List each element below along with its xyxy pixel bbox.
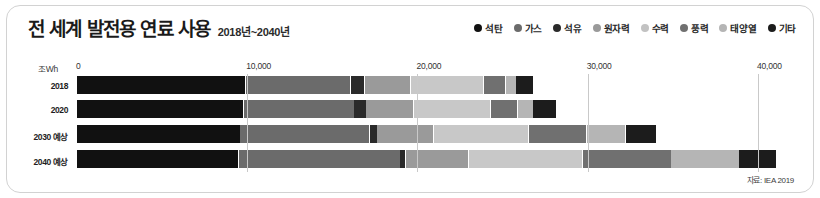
legend-item-6: 태양열 [719, 21, 756, 35]
bar-segment [400, 150, 405, 168]
bar-segment [77, 76, 245, 94]
legend-item-label: 태양열 [730, 21, 756, 35]
bar-segment [370, 125, 377, 143]
x-tick-label: 30,000 [587, 61, 612, 71]
category-label-1: 2020 [51, 105, 68, 115]
bar-segment [77, 150, 238, 168]
bar-segment [77, 125, 240, 143]
legend-item-1: 가스 [514, 21, 542, 35]
bar-row [77, 100, 792, 118]
bar-segment [377, 125, 433, 143]
bar-segment [244, 100, 354, 118]
bar-segment [240, 125, 369, 143]
legend-item-3: 원자력 [593, 21, 630, 35]
legend-item-2: 석유 [553, 21, 581, 35]
gridline [247, 74, 248, 172]
bar-segment [516, 76, 532, 94]
bar-segment [671, 150, 738, 168]
legend-item-label: 기타 [779, 21, 796, 35]
bar-segment [469, 150, 582, 168]
x-axis-tick-labels: 010,00020,00030,00040,000 [77, 61, 792, 73]
gridline [588, 74, 589, 172]
bar-row [77, 76, 792, 94]
bar-segment [533, 100, 556, 118]
legend-item-4: 수력 [641, 21, 669, 35]
category-label-3: 2040 예상 [34, 155, 68, 167]
bar-segment [411, 76, 484, 94]
bar-segment [506, 76, 516, 94]
legend-item-label: 석탄 [485, 21, 502, 35]
bar-segment [529, 125, 586, 143]
bar-segment [583, 150, 671, 168]
legend-dot-icon [641, 24, 649, 32]
bar-segment [626, 125, 656, 143]
bar-segment [484, 76, 506, 94]
legend-item-7: 기타 [768, 21, 796, 35]
legend-dot-icon [593, 24, 601, 32]
page-title: 전 세계 발전용 연료 사용 [28, 14, 211, 41]
x-tick-label: 40,000 [757, 61, 782, 71]
legend-item-5: 풍력 [680, 21, 708, 35]
bar-segment [351, 76, 364, 94]
bar-segment [587, 125, 626, 143]
legend-item-label: 수력 [652, 21, 669, 35]
chart-card: 전 세계 발전용 연료 사용 2018년~2040년 석탄가스석유원자력수력풍력… [0, 0, 820, 198]
chart-legend: 석탄가스석유원자력수력풍력태양열기타 [474, 21, 796, 35]
legend-item-label: 가스 [525, 21, 542, 35]
x-tick-label: 20,000 [416, 61, 441, 71]
bar-segment [414, 100, 490, 118]
source-note: 자료: IEA 2019 [747, 174, 794, 185]
bar-segment [491, 100, 518, 118]
title-group: 전 세계 발전용 연료 사용 2018년~2040년 [28, 14, 290, 41]
x-tick-label: 0 [76, 61, 81, 71]
bar-row [77, 125, 792, 143]
bar-segment [239, 150, 400, 168]
axis-unit-label: 조Wh [38, 62, 58, 74]
y-axis-category-labels: 201820202030 예상2040 예상 [0, 74, 75, 172]
legend-item-label: 원자력 [604, 21, 630, 35]
category-label-0: 2018 [51, 81, 68, 91]
legend-dot-icon [719, 24, 727, 32]
page-subtitle: 2018년~2040년 [218, 23, 290, 39]
bar-segment [366, 100, 413, 118]
x-tick-label: 10,000 [246, 61, 271, 71]
legend-dot-icon [680, 24, 688, 32]
bar-segment [365, 76, 410, 94]
bar-segment [518, 100, 533, 118]
legend-item-label: 석유 [564, 21, 581, 35]
gridline [758, 74, 759, 172]
category-label-2: 2030 예상 [34, 130, 68, 142]
bar-segment [406, 150, 468, 168]
legend-item-0: 석탄 [474, 21, 502, 35]
legend-dot-icon [768, 24, 776, 32]
bar-row [77, 150, 792, 168]
bar-segment [77, 100, 243, 118]
bar-segment [434, 125, 529, 143]
plot-area [77, 74, 792, 172]
legend-item-label: 풍력 [691, 21, 708, 35]
bar-segment [246, 76, 351, 94]
legend-dot-icon [514, 24, 522, 32]
gridline [417, 74, 418, 172]
legend-dot-icon [553, 24, 561, 32]
legend-dot-icon [474, 24, 482, 32]
bar-segment [354, 100, 365, 118]
